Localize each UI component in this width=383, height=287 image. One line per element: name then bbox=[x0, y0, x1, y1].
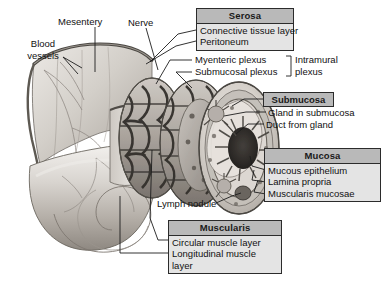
mucosa-item-muscularis-mucosae: Muscularis mucosae bbox=[268, 188, 378, 200]
label-duct-from-gland: Duct from gland bbox=[266, 119, 333, 131]
callout-muscularis-body: Circular muscle layer Longitudinal muscl… bbox=[169, 236, 281, 274]
callout-serosa-heading: Serosa bbox=[197, 9, 293, 24]
figure-canvas: Blood vessels Mesentery Nerve Serosa Con… bbox=[0, 0, 383, 287]
label-intramural-plexus-line1: Intramural bbox=[295, 54, 338, 66]
mucosa-item-lamina-propria: Lamina propria bbox=[268, 176, 378, 188]
callout-mucosa-body: Mucous epithelium Lamina propria Muscula… bbox=[265, 164, 380, 202]
label-gland-in-submucosa: Gland in submucosa bbox=[268, 107, 355, 119]
callout-mucosa-heading: Mucosa bbox=[265, 149, 380, 164]
label-blood-vessels: Blood vessels bbox=[15, 38, 71, 61]
muscularis-item-circular-muscle-layer: Circular muscle layer bbox=[172, 237, 279, 249]
muscularis-item-longitudinal-muscle: Longitudinal muscle bbox=[172, 248, 279, 260]
label-intramural-plexus-line2: plexus bbox=[295, 66, 322, 78]
mucosa-item-mucous-epithelium: Mucous epithelium bbox=[268, 165, 378, 177]
callout-serosa-body: Connective tissue layer Peritoneum bbox=[197, 24, 293, 50]
callout-mucosa: Mucosa Mucous epithelium Lamina propria … bbox=[264, 148, 381, 202]
callout-serosa: Serosa Connective tissue layer Peritoneu… bbox=[196, 8, 294, 51]
muscularis-item-longitudinal-muscle-cont: layer bbox=[172, 260, 279, 272]
label-mesentery: Mesentery bbox=[58, 16, 102, 28]
label-lymph-nodule: Lymph nodule bbox=[157, 198, 216, 210]
callout-submucosa-heading: Submucosa bbox=[263, 92, 334, 107]
label-myenteric-plexus: Myenteric plexus bbox=[195, 54, 266, 66]
serosa-item-peritoneum: Peritoneum bbox=[200, 36, 291, 48]
label-nerve: Nerve bbox=[128, 17, 153, 29]
label-submucosal-plexus: Submucosal plexus bbox=[195, 66, 277, 78]
serosa-item-connective-tissue-layer: Connective tissue layer bbox=[200, 25, 291, 37]
lymph-nodule-shape bbox=[235, 186, 251, 200]
callout-muscularis-heading: Muscularis bbox=[169, 221, 281, 236]
callout-muscularis: Muscularis Circular muscle layer Longitu… bbox=[168, 220, 282, 274]
lumen bbox=[228, 127, 258, 169]
